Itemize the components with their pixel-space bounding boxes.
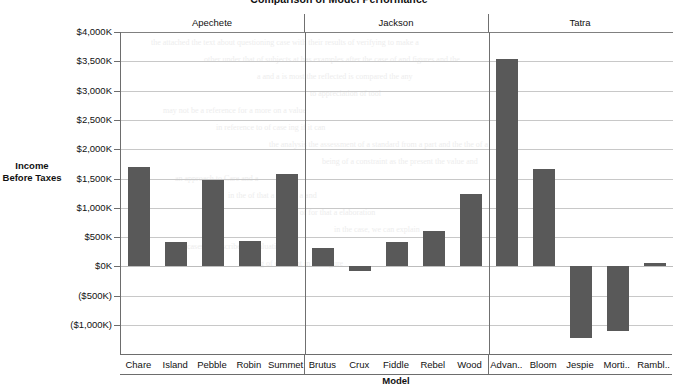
x-axis-tick-label: Rambl..: [635, 355, 672, 374]
scan-ghost-line: in reference to of case ing if it can: [216, 123, 325, 132]
scan-ghost-line: a and a is most the reflected is compare…: [257, 72, 413, 81]
bar-fiddle: [386, 242, 408, 267]
y-axis-tick-label: ($1,000K): [0, 319, 112, 330]
group-header-band: ApecheteJacksonTatra: [120, 14, 672, 32]
x-axis-tick-labels: ChareIslandPebbleRobinSummetBrutusCruxFi…: [120, 355, 672, 374]
x-axis-tick-label: Pebble: [194, 355, 231, 374]
chart-title: Comparison of Model Performance: [0, 0, 678, 6]
y-axis-tick-label: $3,500K: [0, 55, 112, 66]
gridline: [121, 61, 673, 62]
y-axis-tick-label: $1,500K: [0, 173, 112, 184]
scan-ghost-line: the attached the text about questioning …: [151, 38, 419, 47]
bar-bloom: [533, 169, 555, 266]
x-axis-tick-label: Rebel: [414, 355, 451, 374]
y-axis-tick-label: $2,000K: [0, 143, 112, 154]
scan-ghost-line: being of a constraint as the present the…: [322, 157, 478, 166]
y-axis-tick-label: $1,000K: [0, 202, 112, 213]
y-axis-tick-label: $500K: [0, 231, 112, 242]
scan-ghost-line: the analysis the assessment of a standar…: [269, 140, 488, 149]
scan-ghost-line: other under that of subjects at has exam…: [204, 55, 460, 64]
bar-advan: [496, 59, 518, 266]
scan-ghost-line: may not be a reference for a more on a v…: [163, 106, 306, 115]
group-header-apechete: Apechete: [120, 14, 304, 32]
bar-rebel: [423, 231, 445, 267]
group-separator: [489, 32, 490, 355]
y-axis-title-line-1: Income: [2, 160, 62, 172]
gridline: [121, 91, 673, 92]
gridline: [121, 120, 673, 121]
x-axis-tick-label: Wood: [451, 355, 488, 374]
scan-ghost-line: in the case, we can explain: [334, 225, 420, 234]
x-axis-tick-label: Chare: [120, 355, 157, 374]
bar-morti: [607, 266, 629, 330]
x-axis-tick-label: Advan..: [488, 355, 525, 374]
group-header-jackson: Jackson: [304, 14, 488, 32]
bar-chart: Comparison of Model Performance Income B…: [0, 0, 678, 390]
group-header-separator: [304, 14, 305, 32]
bar-summet: [276, 174, 298, 267]
plot-area: the attached the text about questioning …: [120, 32, 672, 355]
y-axis-tick-label: $3,000K: [0, 85, 112, 96]
x-axis-tick-label: Robin: [230, 355, 267, 374]
group-header-tatra: Tatra: [488, 14, 672, 32]
bar-brutus: [312, 248, 334, 266]
bar-wood: [460, 194, 482, 267]
y-axis-tick-label: $4,000K: [0, 26, 112, 37]
bar-island: [165, 242, 187, 267]
bar-pebble: [202, 180, 224, 267]
x-axis-tick-label: Bloom: [525, 355, 562, 374]
bar-rambl: [644, 263, 666, 266]
bar-jespie: [570, 266, 592, 338]
group-separator: [305, 32, 306, 355]
x-axis-tick-label: Crux: [341, 355, 378, 374]
y-axis-tick-label: ($500K): [0, 290, 112, 301]
x-axis-tick-label: Jespie: [562, 355, 599, 374]
bar-robin: [239, 241, 261, 267]
x-axis-tick-label: Morti..: [598, 355, 635, 374]
gridline: [121, 32, 673, 33]
x-axis-tick-label: Fiddle: [378, 355, 415, 374]
x-axis-title: Model: [120, 375, 672, 386]
bar-crux: [349, 266, 371, 271]
group-header-separator: [488, 14, 489, 32]
x-axis-tick-label: Summet: [267, 355, 304, 374]
gridline: [121, 149, 673, 150]
scan-ghost-line: in the of that a should a and: [228, 191, 317, 200]
y-axis-tick-label: $2,500K: [0, 114, 112, 125]
y-axis-tick-label: $0K: [0, 260, 112, 271]
x-axis-tick-label: Brutus: [304, 355, 341, 374]
x-axis-tick-label: Island: [157, 355, 194, 374]
bar-chare: [128, 167, 150, 267]
